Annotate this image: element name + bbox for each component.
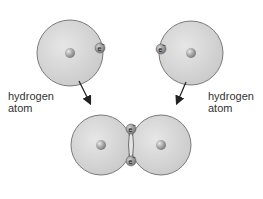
nucleus-icon: [156, 140, 166, 150]
right-hydrogen-atom: e −: [156, 21, 223, 85]
left-hydrogen-atom: e −: [37, 20, 106, 86]
svg-text:−: −: [133, 122, 137, 128]
svg-text:−: −: [102, 41, 106, 47]
hydrogen-molecule: e − e −: [71, 115, 191, 175]
left-arrow-icon: [79, 81, 90, 103]
nucleus-icon: [65, 48, 75, 58]
right-arrow-icon: [177, 82, 186, 103]
electron-icon: e −: [156, 42, 167, 54]
left-atom-label: hydrogen atom: [8, 90, 54, 114]
right-atom-label-line1: hydrogen: [208, 90, 254, 102]
left-atom-label-line2: atom: [8, 102, 54, 114]
nucleus-icon: [96, 140, 106, 150]
shared-electron-top-icon: e −: [126, 122, 137, 134]
nucleus-icon: [186, 48, 196, 58]
right-atom-label-line2: atom: [208, 102, 254, 114]
right-atom-label: hydrogen atom: [208, 90, 254, 114]
left-atom-label-line1: hydrogen: [8, 90, 54, 102]
svg-text:−: −: [163, 42, 167, 48]
svg-text:−: −: [133, 154, 137, 160]
